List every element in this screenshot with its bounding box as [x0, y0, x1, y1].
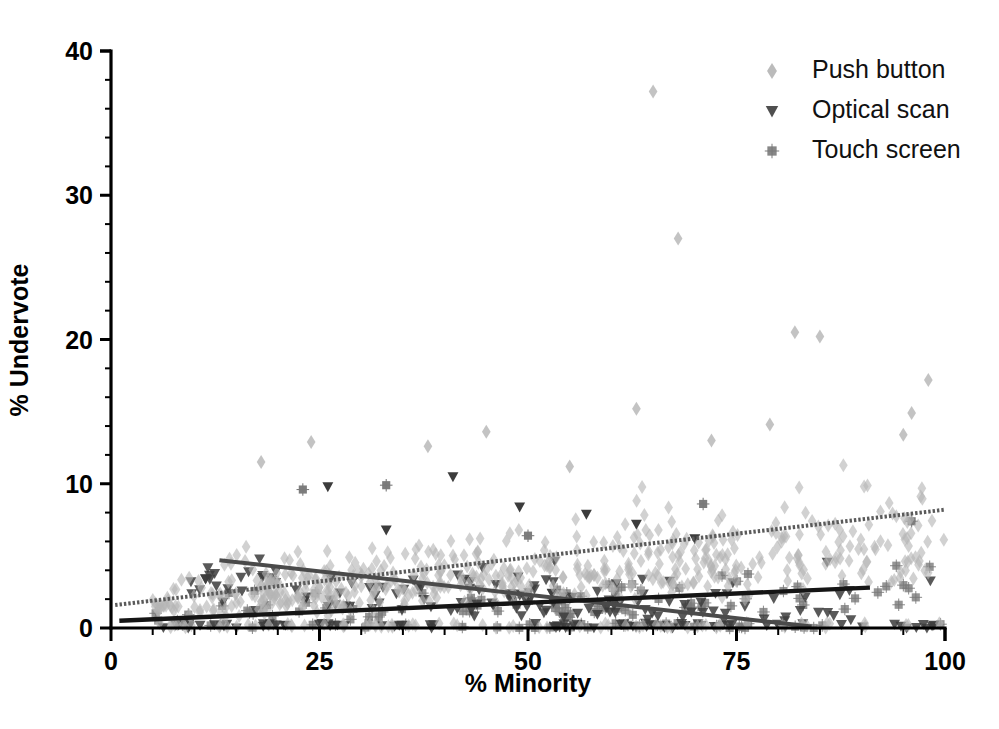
y-tick-label: 40: [65, 37, 93, 65]
y-tick-label: 20: [65, 326, 93, 354]
y-tick-label: 10: [65, 470, 93, 498]
legend-label-touch-screen: Touch screen: [812, 135, 961, 163]
x-tick-label: 75: [723, 647, 751, 675]
x-tick-label: 0: [104, 647, 118, 675]
legend-label-optical-scan: Optical scan: [812, 95, 950, 123]
x-tick-label: 100: [924, 647, 966, 675]
x-axis-title: % Minority: [465, 669, 591, 697]
y-tick-label: 0: [79, 614, 93, 642]
chart-container: 0102030400255075100 % Undervote % Minori…: [0, 0, 999, 729]
y-axis-title: % Undervote: [5, 264, 33, 417]
y-tick-label: 30: [65, 181, 93, 209]
scatter-plot: 0102030400255075100 % Undervote % Minori…: [0, 0, 999, 729]
x-tick-label: 25: [306, 647, 334, 675]
legend-label-push-button: Push button: [812, 55, 945, 83]
